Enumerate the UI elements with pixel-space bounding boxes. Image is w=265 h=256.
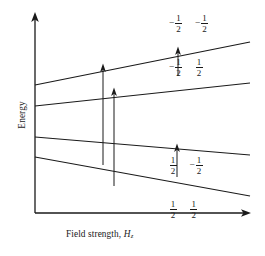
fraction-denominator: 2 [201, 24, 208, 33]
fraction-denominator: 2 [190, 210, 197, 219]
x-axis-subscript: z [131, 232, 134, 239]
transition-arrow-1 [100, 64, 106, 166]
fraction-numerator: 1 [175, 58, 182, 67]
sign-glyph: − [169, 19, 174, 29]
fraction-denominator: 2 [196, 166, 203, 175]
energy-level-line-2 [35, 137, 250, 155]
fraction-numerator: 1 [175, 14, 182, 23]
energy-level-line-3 [35, 157, 250, 196]
sign-glyph: − [169, 63, 174, 73]
x-axis-label-text: Field strength, [66, 229, 124, 239]
x-axis-label: Field strength, Hz [66, 229, 133, 239]
fraction-numerator: 1 [196, 156, 203, 165]
level-label-3: 1 2 1 2 [169, 200, 197, 220]
energy-level-diagram: Field strength, Hz Energy − 1 2 − 1 2 − [0, 0, 265, 256]
level-label-1: − 1 2 1 2 [169, 58, 203, 78]
fraction-denominator: 2 [196, 68, 203, 77]
fraction: 1 2 [201, 14, 208, 34]
quantum-number-0-second: − 1 2 [195, 14, 208, 34]
quantum-number-2-second: − 1 2 [190, 156, 203, 176]
quantum-number-2-first: 1 2 [169, 156, 177, 176]
quantum-number-3-second: 1 2 [190, 200, 198, 220]
quantum-number-1-second: 1 2 [195, 58, 203, 78]
fraction-denominator: 2 [175, 68, 182, 77]
fraction: 1 2 [190, 200, 197, 220]
fraction-denominator: 2 [170, 210, 177, 219]
fraction-denominator: 2 [175, 24, 182, 33]
x-axis-symbol: H [124, 229, 131, 239]
fraction: 1 2 [170, 156, 177, 176]
quantum-number-3-first: 1 2 [169, 200, 177, 220]
quantum-number-1-first: − 1 2 [169, 58, 182, 78]
fraction-denominator: 2 [170, 166, 177, 175]
fraction-numerator: 1 [170, 200, 177, 209]
fraction: 1 2 [170, 200, 177, 220]
energy-level-line-1 [35, 83, 250, 106]
fraction: 1 2 [175, 14, 182, 34]
fraction-numerator: 1 [196, 58, 203, 67]
fraction-numerator: 1 [190, 200, 197, 209]
fraction: 1 2 [175, 58, 182, 78]
energy-level-line-0 [35, 42, 250, 85]
sign-glyph: − [190, 161, 195, 171]
level-label-2: 1 2 − 1 2 [169, 156, 203, 176]
y-axis-label: Energy [17, 85, 27, 145]
fraction-numerator: 1 [170, 156, 177, 165]
quantum-number-0-first: − 1 2 [169, 14, 182, 34]
diagram-canvas [0, 0, 265, 256]
level-label-0: − 1 2 − 1 2 [169, 14, 208, 34]
sign-glyph: − [195, 19, 200, 29]
fraction: 1 2 [196, 58, 203, 78]
fraction: 1 2 [196, 156, 203, 176]
fraction-numerator: 1 [201, 14, 208, 23]
